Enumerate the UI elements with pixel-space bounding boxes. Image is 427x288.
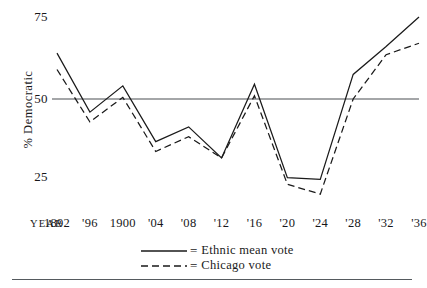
legend-item-ethnic-mean-vote: = Ethnic mean vote [141,243,341,258]
legend-item-chicago-vote: = Chicago vote [141,258,341,273]
legend-swatch-solid-icon [141,246,187,256]
x-axis-tick-96: '96 [82,217,98,230]
legend-swatch-dashed-icon [141,261,187,271]
legend-label-0: Ethnic mean vote [201,243,293,258]
x-axis-tick-12: '12 [214,217,230,230]
x-axis-tick-04: '04 [148,217,164,230]
x-axis-tick-16: '16 [247,217,263,230]
x-axis-tick-28: '28 [345,217,361,230]
x-axis-tick-1900: 1900 [110,217,136,230]
x-axis-tick-32: '32 [378,217,394,230]
legend-label-1: Chicago vote [201,258,271,273]
x-axis-tick-20: '20 [280,217,296,230]
x-axis-tick-1892: 1892 [44,217,70,230]
x-axis-tick-08: '08 [181,217,197,230]
series-line-chicago-vote [57,43,419,194]
x-axis: YEAR 1892'961900'04'08'12'16'20'24'28'32… [0,213,423,235]
legend-equals-sign-0: = [190,243,197,259]
x-axis-tick-36: '36 [411,217,427,230]
series-line-ethnic-mean-vote [57,17,419,179]
legend-equals-sign-1: = [190,258,197,274]
chart-legend: = Ethnic mean vote = Chicago vote [141,243,341,273]
bottom-rule [12,279,412,280]
x-axis-tick-24: '24 [312,217,328,230]
plot-area [0,0,423,215]
